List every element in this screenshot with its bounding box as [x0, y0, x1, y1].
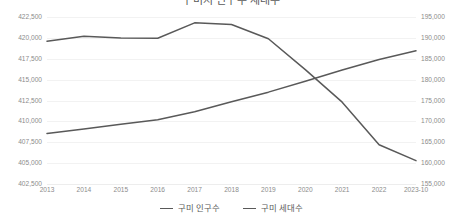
left-axis-tick-label: 410,000	[18, 118, 42, 125]
legend-swatch-icon	[160, 208, 173, 209]
left-axis-tick-label: 405,000	[18, 160, 42, 167]
x-axis-tick-label: 2013	[40, 187, 55, 194]
x-axis: 2013201420152016201720182019202020212022…	[47, 187, 416, 199]
right-axis-tick-label: 185,000	[421, 55, 445, 62]
left-y-axis: 422,500420,000417,500415,000412,500410,0…	[0, 17, 42, 184]
plot-area	[47, 17, 416, 184]
x-axis-tick-label: 2014	[77, 187, 92, 194]
x-axis-tick-label: 2023-10	[404, 187, 428, 194]
series-lines	[47, 17, 416, 184]
left-axis-tick-label: 412,500	[18, 97, 42, 104]
legend-label: 구미 세대수	[261, 204, 303, 212]
left-axis-tick-label: 417,500	[18, 55, 42, 62]
x-axis-tick-label: 2021	[335, 187, 350, 194]
legend-swatch-icon	[243, 208, 256, 209]
right-axis-tick-label: 195,000	[421, 14, 445, 21]
left-axis-tick-label: 415,000	[18, 76, 42, 83]
x-axis-tick-label: 2019	[261, 187, 276, 194]
series-line	[47, 51, 416, 134]
x-axis-tick-label: 2017	[187, 187, 202, 194]
left-axis-tick-label: 407,500	[18, 139, 42, 146]
gridline	[47, 184, 416, 185]
right-axis-tick-label: 170,000	[421, 118, 445, 125]
x-axis-tick-label: 2020	[298, 187, 313, 194]
x-axis-tick-label: 2018	[224, 187, 239, 194]
left-axis-tick-label: 422,500	[18, 14, 42, 21]
legend-item[interactable]: 구미 인구수	[160, 204, 220, 212]
right-axis-tick-label: 190,000	[421, 35, 445, 42]
left-axis-tick-label: 402,500	[18, 181, 42, 188]
right-axis-tick-label: 165,000	[421, 139, 445, 146]
line-chart: 구미시 인구수 세대수 422,500420,000417,500415,000…	[0, 0, 463, 216]
right-axis-tick-label: 160,000	[421, 160, 445, 167]
right-axis-tick-label: 175,000	[421, 97, 445, 104]
right-y-axis: 195,000190,000185,000180,000175,000170,0…	[421, 17, 463, 184]
chart-title: 구미시 인구수 세대수	[0, 0, 463, 7]
left-axis-tick-label: 420,000	[18, 35, 42, 42]
legend-item[interactable]: 구미 세대수	[243, 204, 303, 212]
x-axis-tick-label: 2015	[113, 187, 128, 194]
legend-label: 구미 인구수	[178, 204, 220, 212]
chart-legend: 구미 인구수구미 세대수	[0, 201, 463, 215]
series-line	[47, 23, 416, 161]
right-axis-tick-label: 180,000	[421, 76, 445, 83]
x-axis-tick-label: 2016	[150, 187, 165, 194]
x-axis-tick-label: 2022	[372, 187, 387, 194]
